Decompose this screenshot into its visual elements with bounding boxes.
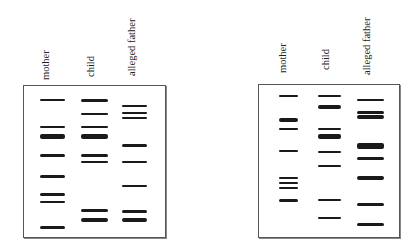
dna-band xyxy=(40,201,65,203)
dna-band xyxy=(40,226,65,229)
dna-band xyxy=(318,105,341,109)
dna-band xyxy=(318,165,341,167)
dna-band xyxy=(318,217,341,219)
dna-band xyxy=(357,223,384,226)
dna-band xyxy=(318,128,341,130)
dna-band xyxy=(122,218,147,222)
lane-label-alleged-father: alleged father xyxy=(126,19,137,76)
lane-label-child: child xyxy=(85,56,96,77)
lane-label-mother: mother xyxy=(40,50,51,80)
lane-label-mother: mother xyxy=(277,43,288,73)
dna-band xyxy=(279,182,298,184)
dna-band xyxy=(122,210,147,213)
dna-band xyxy=(318,95,341,97)
dna-band xyxy=(279,150,298,152)
dna-band xyxy=(279,177,298,179)
dna-band xyxy=(40,154,65,157)
dna-band xyxy=(81,161,108,163)
dna-band xyxy=(357,115,384,119)
dna-band xyxy=(122,105,147,107)
dna-band xyxy=(40,134,65,139)
dna-band xyxy=(81,218,108,222)
lane-label-alleged-father: alleged father xyxy=(361,18,372,75)
dna-band xyxy=(357,111,384,114)
dna-band xyxy=(122,185,147,187)
dna-band xyxy=(357,99,384,101)
dna-band xyxy=(279,199,298,202)
dna-band xyxy=(40,126,65,128)
dna-band xyxy=(40,193,65,196)
dna-band xyxy=(357,176,384,180)
dna-band xyxy=(318,199,341,201)
dna-band xyxy=(357,157,384,160)
dna-band xyxy=(122,112,147,114)
dna-band xyxy=(81,209,108,212)
dna-band xyxy=(357,203,384,206)
dna-band xyxy=(279,118,298,122)
dna-band xyxy=(122,161,147,163)
dna-band xyxy=(318,151,341,153)
dna-band xyxy=(279,187,298,189)
lane-label-child: child xyxy=(320,49,331,70)
dna-band xyxy=(357,143,384,149)
dna-band xyxy=(40,175,65,178)
dna-band xyxy=(122,144,147,147)
dna-band xyxy=(81,126,108,128)
dna-band xyxy=(40,99,65,101)
dna-band xyxy=(318,134,341,139)
dna-band xyxy=(81,113,108,115)
dna-band xyxy=(81,154,108,157)
dna-band xyxy=(279,128,298,130)
dna-band xyxy=(81,134,108,139)
dna-band xyxy=(279,95,298,97)
dna-band xyxy=(122,117,147,119)
dna-band xyxy=(81,99,108,102)
